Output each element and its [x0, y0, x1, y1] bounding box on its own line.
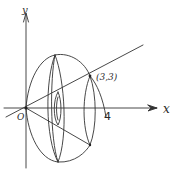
outer-surface-bottom [26, 108, 90, 162]
x-intercept-label: 4 [104, 111, 111, 122]
solid-of-revolution-figure: y x O 4 (3,3) [0, 0, 184, 176]
lower-intersection-point [89, 144, 91, 146]
y-axis-label: y [22, 5, 28, 15]
origin-point [24, 106, 27, 109]
cross-section-x3-right [90, 76, 95, 145]
x-axis-label: x [163, 103, 170, 115]
origin-label: O [17, 113, 24, 122]
intersection-point-label: (3,3) [96, 73, 117, 82]
cross-section-inner [52, 55, 58, 162]
diagram-canvas [0, 0, 184, 176]
inner-ellipse-inner [57, 97, 59, 120]
cross-section-x3-left [84, 76, 90, 145]
mirrored-line [26, 108, 90, 145]
intersection-point [89, 75, 92, 78]
